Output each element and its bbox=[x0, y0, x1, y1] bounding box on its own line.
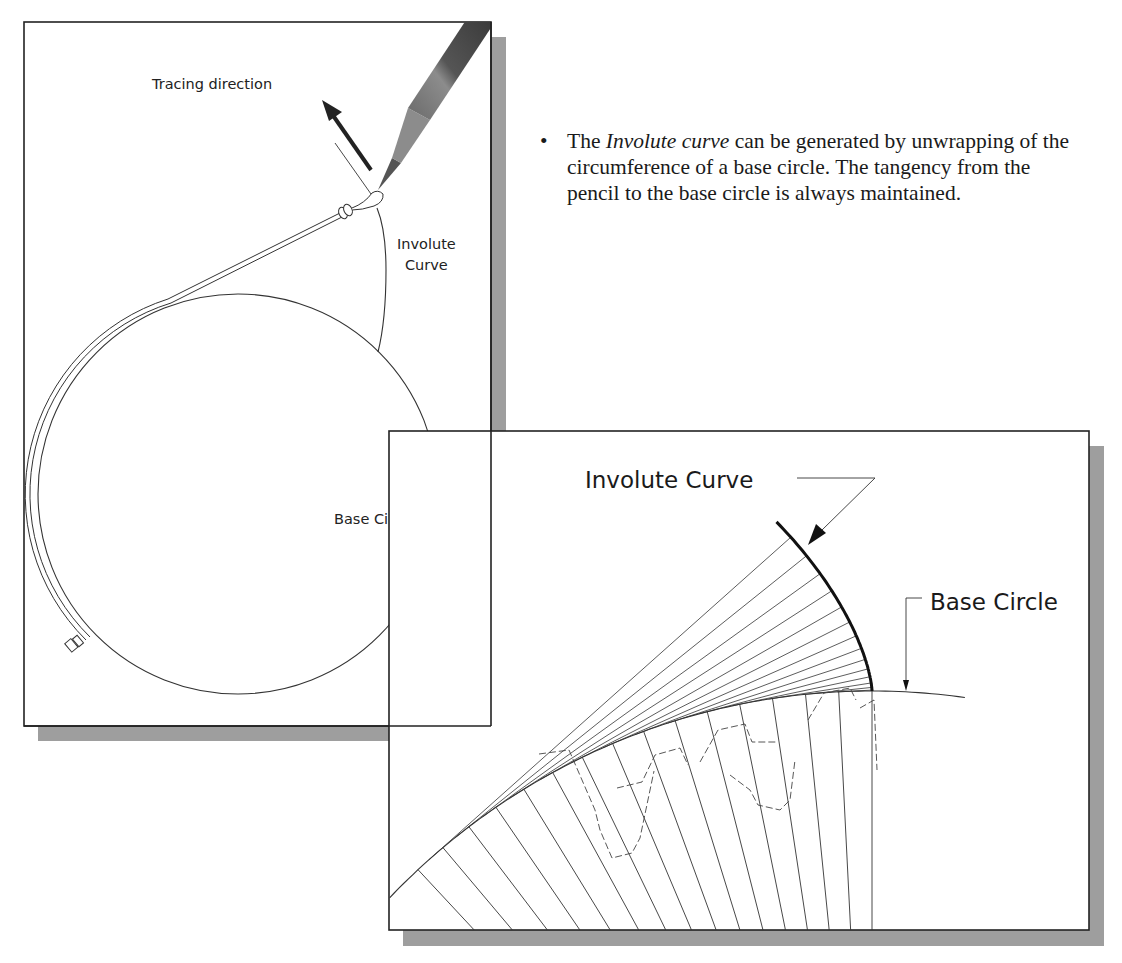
right-involute-label: Involute Curve bbox=[585, 467, 753, 493]
right-base-circle-label: Base Circle bbox=[930, 589, 1058, 615]
left-involute-label-line2: Curve bbox=[405, 257, 448, 273]
tracing-direction-label: Tracing direction bbox=[151, 76, 272, 92]
left-involute-label-line1: Involute bbox=[397, 236, 456, 252]
description-paragraph: • The Involute curve can be generated by… bbox=[540, 128, 1080, 206]
right-panel: Involute Curve Base Circle bbox=[389, 431, 1104, 946]
right-panel-frame bbox=[389, 431, 1089, 930]
bullet: • bbox=[540, 128, 548, 154]
involute-emphasis: Involute curve bbox=[606, 129, 730, 153]
